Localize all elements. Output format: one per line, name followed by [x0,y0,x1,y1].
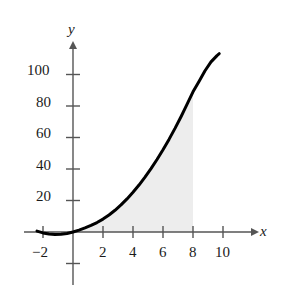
x-tick-label-10: 10 [215,245,230,260]
chart-figure: 100 80 60 40 20 −2 2 4 6 8 10 y x [0,0,284,302]
shaded-region [73,92,193,232]
x-tick-label-8: 8 [189,245,197,260]
y-tick-label-40: 40 [36,158,51,173]
x-tick-label-minus-2: −2 [32,245,48,260]
y-tick-label-60: 60 [36,126,51,141]
x-tick-label-4: 4 [129,245,137,260]
x-axis-label: x [260,224,267,239]
y-tick-label-100: 100 [27,63,50,78]
y-tick-label-80: 80 [36,95,51,110]
x-tick-label-6: 6 [159,245,167,260]
x-tick-label-2: 2 [99,245,107,260]
y-axis-label: y [68,22,75,37]
y-tick-label-20: 20 [36,189,51,204]
